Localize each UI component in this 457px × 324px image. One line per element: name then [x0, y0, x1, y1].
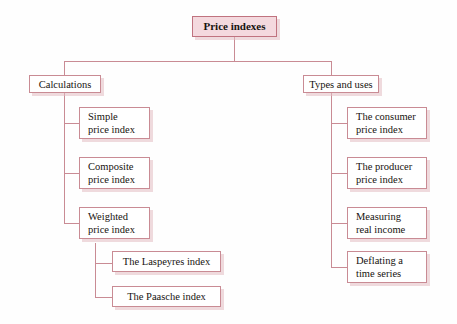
connector-weighted-trunk: [95, 243, 96, 297]
node-label-line1: The consumer: [348, 110, 426, 123]
node-label-line2: price index: [80, 173, 149, 186]
node-measuring-real-income[interactable]: Measuring real income: [347, 207, 427, 239]
node-label-line1: Measuring: [348, 210, 426, 223]
node-label-line1: The producer: [348, 160, 426, 173]
connector-right-stub-1: [331, 123, 347, 124]
connector-left-trunk: [64, 93, 65, 223]
connector-left-stub-1: [64, 123, 79, 124]
node-root-price-indexes[interactable]: Price indexes: [192, 16, 277, 37]
node-laspeyres-index[interactable]: The Laspeyres index: [112, 251, 221, 272]
node-types-and-uses[interactable]: Types and uses: [303, 75, 379, 93]
connector-right-trunk: [331, 93, 332, 267]
node-producer-price-index[interactable]: The producer price index: [347, 157, 427, 189]
connector-right-stub-2: [331, 173, 347, 174]
node-label-line1: Composite: [80, 160, 149, 173]
node-deflating-time-series[interactable]: Deflating a time series: [347, 251, 427, 283]
node-label: Price indexes: [203, 20, 265, 33]
node-consumer-price-index[interactable]: The consumer price index: [347, 107, 427, 139]
connector-root-bus: [64, 61, 332, 62]
node-label: The Laspeyres index: [123, 255, 210, 268]
node-label-line1: Weighted: [80, 210, 149, 223]
node-label-line2: price index: [348, 123, 426, 136]
node-calculations[interactable]: Calculations: [29, 75, 101, 93]
connector-to-calculations: [64, 61, 65, 75]
connector-weighted-stub-2: [95, 297, 112, 298]
connector-right-stub-3: [331, 223, 347, 224]
connector-left-stub-2: [64, 173, 79, 174]
node-label-line2: time series: [348, 267, 426, 280]
node-label: The Paasche index: [127, 290, 206, 303]
connector-right-stub-4: [331, 267, 347, 268]
node-label-line2: price index: [80, 123, 149, 136]
node-label-line2: real income: [348, 223, 426, 236]
connector-left-stub-3: [64, 223, 79, 224]
node-simple-price-index[interactable]: Simple price index: [79, 107, 150, 139]
node-label-line1: Deflating a: [348, 254, 426, 267]
node-label: Types and uses: [309, 78, 372, 91]
node-label: Calculations: [39, 78, 92, 91]
node-weighted-price-index[interactable]: Weighted price index: [79, 207, 150, 239]
connector-weighted-stub-1: [95, 263, 112, 264]
diagram-canvas: Price indexes Calculations Types and use…: [0, 0, 457, 324]
node-label-line2: price index: [348, 173, 426, 186]
node-label-line2: price index: [80, 223, 149, 236]
node-composite-price-index[interactable]: Composite price index: [79, 157, 150, 189]
node-label-line1: Simple: [80, 110, 149, 123]
node-paasche-index[interactable]: The Paasche index: [112, 286, 221, 307]
connector-root-stem: [234, 37, 235, 61]
connector-to-types-and-uses: [331, 61, 332, 75]
